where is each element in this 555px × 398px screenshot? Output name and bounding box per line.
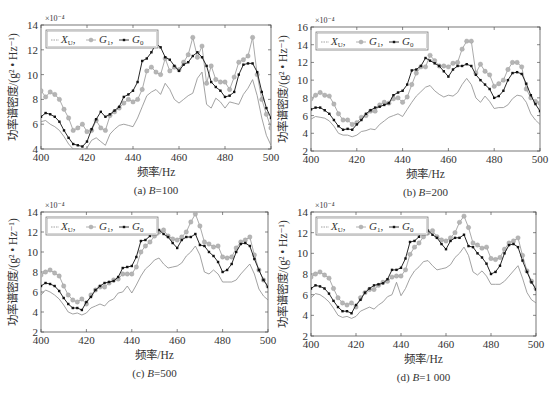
panel-caption: (a) B=100 (134, 184, 179, 197)
panel-c: 4004204404604805002468101214×10⁻⁴功率谱密度/(… (6, 201, 277, 380)
legend-g0-swatch (123, 39, 125, 41)
y-tick-label: 14 (27, 206, 39, 218)
x-axis-title: 频率/Hz (406, 167, 445, 180)
legend-entry-g1: G1, (369, 35, 383, 49)
y-tick-label: 10 (297, 247, 309, 259)
x-tick-label: 480 (483, 338, 500, 350)
y-axis-title: 功率谱密度/(g² • Hz⁻¹) (276, 35, 290, 143)
figure: 400420440460480500468101214×10⁻⁴功率谱密度/(g… (0, 0, 555, 398)
panel-caption: (c) B=500 (132, 367, 177, 380)
x-tick-label: 420 (78, 334, 95, 346)
x-tick-label: 500 (260, 334, 277, 346)
y-exponent-label: ×10⁻⁴ (315, 201, 335, 210)
panel-a: 400420440460480500468101214×10⁻⁴功率谱密度/(g… (6, 14, 280, 197)
x-tick-label: 460 (438, 338, 455, 350)
legend: XU,G1,G0 (316, 32, 428, 50)
y-tick-label: 4 (303, 127, 309, 139)
y-tick-label: 12 (297, 227, 308, 239)
legend-entry-g1: G1, (369, 220, 383, 234)
x-tick-label: 420 (349, 153, 366, 165)
x-axis-title: 频率/Hz (137, 165, 176, 178)
legend-g1-swatch (89, 225, 93, 229)
legend: XU,G1,G0 (316, 217, 428, 235)
y-tick-label: 14 (27, 19, 39, 31)
y-tick-label: 8 (33, 93, 39, 105)
y-tick-label: 4 (33, 306, 39, 318)
legend-g0-swatch (393, 41, 395, 43)
y-exponent-label: ×10⁻⁴ (45, 14, 65, 23)
y-tick-label: 14 (297, 206, 309, 218)
panel-caption: (b) B=200 (403, 186, 449, 199)
y-exponent-label: ×10⁻⁴ (315, 16, 335, 25)
legend-g1-swatch (359, 40, 363, 44)
y-tick-label: 14 (297, 39, 309, 51)
y-tick-label: 8 (303, 92, 309, 104)
y-exponent-label: ×10⁻⁴ (45, 201, 65, 210)
x-tick-label: 420 (348, 338, 365, 350)
x-tick-label: 420 (79, 151, 96, 163)
y-tick-label: 10 (27, 246, 39, 258)
x-tick-label: 480 (486, 153, 503, 165)
legend-g1-swatch (359, 225, 363, 229)
x-tick-label: 440 (124, 334, 141, 346)
x-tick-label: 480 (217, 151, 234, 163)
x-axis-title: 频率/Hz (404, 352, 443, 365)
y-axis-title: 功率谱密度/(g² • Hz⁻¹) (6, 33, 20, 141)
x-tick-label: 500 (263, 151, 280, 163)
x-tick-label: 460 (440, 153, 457, 165)
y-tick-label: 2 (33, 326, 39, 338)
y-tick-label: 6 (303, 289, 309, 301)
legend-entry-g1: G1, (99, 33, 113, 47)
x-tick-label: 440 (125, 151, 142, 163)
y-tick-label: 10 (27, 69, 39, 81)
legend-g0-swatch (123, 226, 125, 228)
x-tick-label: 460 (169, 334, 186, 346)
y-tick-label: 2 (303, 145, 309, 157)
legend: XU,G1,G0 (46, 30, 158, 48)
panel-b: 400420440460480500246810121416×10⁻⁴功率谱密度… (276, 16, 549, 199)
y-axis-title: 功率谱密度/(g² • Hz⁻¹) (6, 218, 20, 326)
y-tick-label: 12 (27, 44, 38, 56)
y-tick-label: 4 (33, 143, 39, 155)
panel-caption: (d) B=1 000 (397, 371, 451, 384)
y-tick-label: 2 (303, 330, 309, 342)
legend-entry-g1: G1, (99, 220, 113, 234)
y-tick-label: 8 (33, 266, 39, 278)
panel-d: 4004204404604805002468101214×10⁻⁴功率谱密度/(… (276, 201, 545, 384)
y-tick-label: 6 (303, 110, 309, 122)
y-tick-label: 10 (297, 74, 309, 86)
y-tick-label: 8 (303, 268, 309, 280)
x-tick-label: 480 (214, 334, 231, 346)
x-tick-label: 500 (528, 338, 545, 350)
x-tick-label: 460 (171, 151, 188, 163)
x-axis-title: 频率/Hz (135, 348, 174, 361)
x-tick-label: 500 (532, 153, 549, 165)
y-tick-label: 6 (33, 286, 39, 298)
x-tick-label: 440 (393, 338, 410, 350)
legend-g1-swatch (89, 38, 93, 42)
y-axis-title: 功率谱密度/(g² • Hz⁻¹) (276, 220, 290, 328)
y-tick-label: 12 (27, 226, 38, 238)
y-tick-label: 16 (297, 21, 309, 33)
y-tick-label: 6 (33, 118, 39, 130)
legend: XU,G1,G0 (46, 217, 158, 235)
x-tick-label: 440 (394, 153, 411, 165)
legend-g0-swatch (393, 226, 395, 228)
y-tick-label: 4 (303, 309, 309, 321)
y-tick-label: 12 (297, 56, 308, 68)
